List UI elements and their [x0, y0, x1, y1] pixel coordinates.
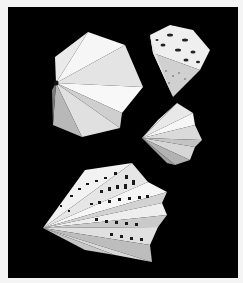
apex-hole	[54, 81, 59, 86]
perforated-cube-sculpture	[150, 25, 210, 97]
photo-frame	[0, 0, 243, 283]
folded-heptagon-sculpture	[52, 32, 143, 137]
sculptures-photo	[0, 0, 243, 283]
small-folded-fan-sculpture	[142, 103, 202, 165]
perforated-fan-sculpture	[43, 163, 167, 262]
